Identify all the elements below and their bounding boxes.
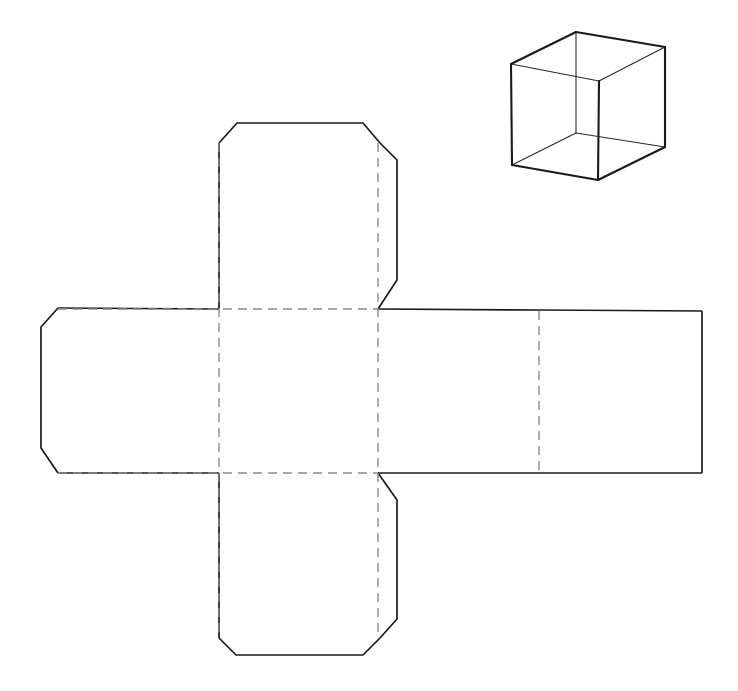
cube-net-group [41, 123, 702, 655]
figure-svg [0, 0, 738, 691]
cube-edge-front-vertical [598, 81, 599, 180]
cube-edge-left-vertical [511, 64, 512, 165]
cube-perspective-group [511, 32, 665, 180]
page-canvas [0, 0, 738, 691]
net-body-fill [41, 123, 702, 655]
net-panel-fills [41, 123, 702, 655]
